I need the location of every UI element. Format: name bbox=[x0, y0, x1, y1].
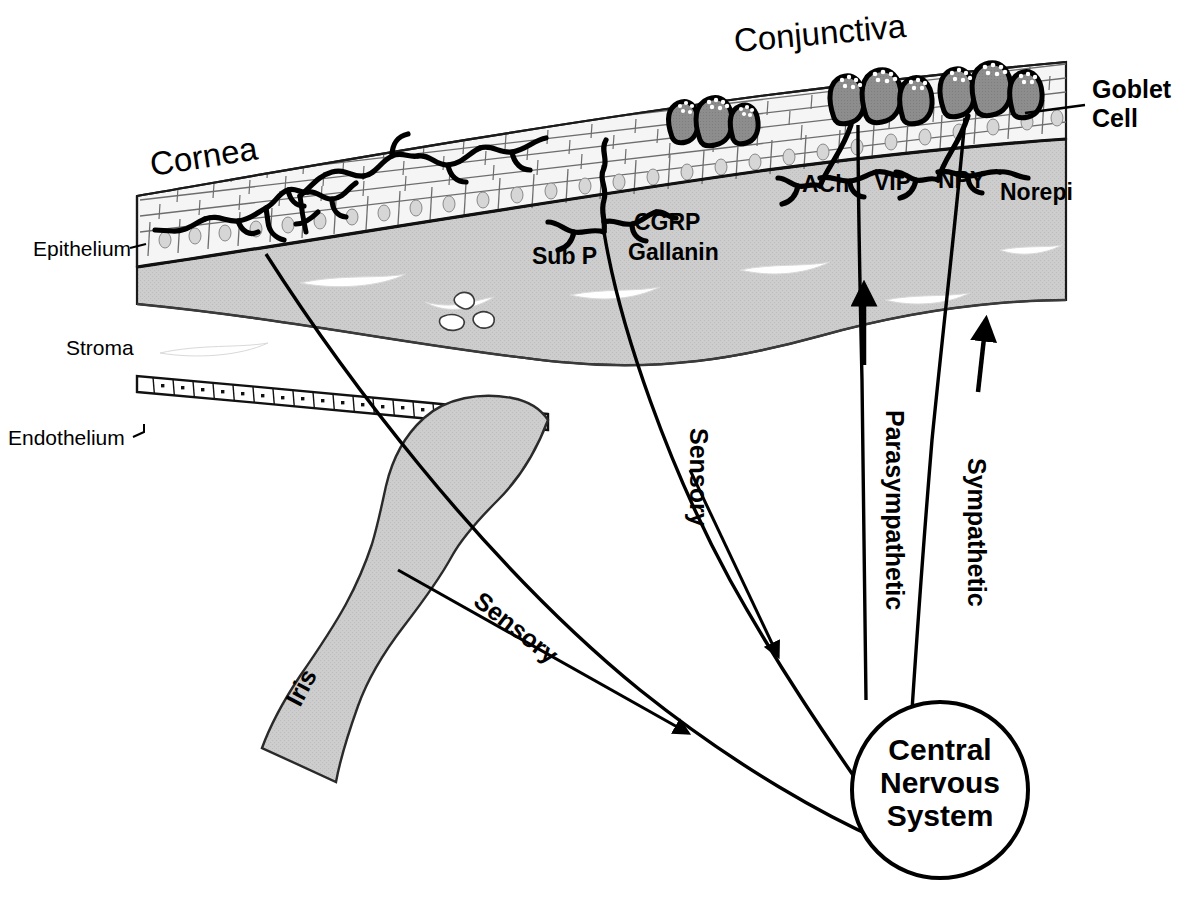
callout-goblet-cell-line1: Goblet bbox=[1092, 75, 1172, 103]
layer-label-epithelium: Epithelium bbox=[33, 237, 131, 260]
goblet-cell-cluster-3 bbox=[940, 63, 1042, 118]
cns-label-line3: System bbox=[887, 799, 994, 832]
nt-label-ach: ACh bbox=[802, 171, 849, 197]
diagram-canvas: Cornea Conjunctiva Epithelium Stroma End… bbox=[0, 0, 1177, 909]
callout-goblet-cell-line2: Cell bbox=[1092, 104, 1138, 132]
nt-label-vip: VIP bbox=[874, 169, 911, 195]
ocular-innervation-figure: Cornea Conjunctiva Epithelium Stroma End… bbox=[0, 0, 1177, 909]
pathway-label-sensory-conjunctiva: Sensory bbox=[685, 428, 713, 527]
nt-label-npy: NPY bbox=[938, 167, 985, 193]
nt-label-gallanin: Gallanin bbox=[628, 239, 719, 265]
pathway-label-parasympathetic: Parasympathetic bbox=[881, 410, 909, 610]
layer-label-stroma: Stroma bbox=[66, 336, 134, 359]
goblet-cell-cluster-1 bbox=[669, 98, 759, 146]
nt-label-sub-p: Sub P bbox=[532, 243, 597, 269]
nt-label-norepi: Norepi bbox=[1000, 179, 1073, 205]
pathway-label-sympathetic: Sympathetic bbox=[963, 458, 991, 607]
goblet-cell-cluster-2 bbox=[830, 70, 932, 124]
cns-label-line2: Nervous bbox=[880, 766, 1000, 799]
cns-label-line1: Central bbox=[888, 733, 991, 766]
nt-label-cgrp: CGRP bbox=[634, 209, 700, 235]
layer-label-endothelium: Endothelium bbox=[8, 426, 125, 449]
